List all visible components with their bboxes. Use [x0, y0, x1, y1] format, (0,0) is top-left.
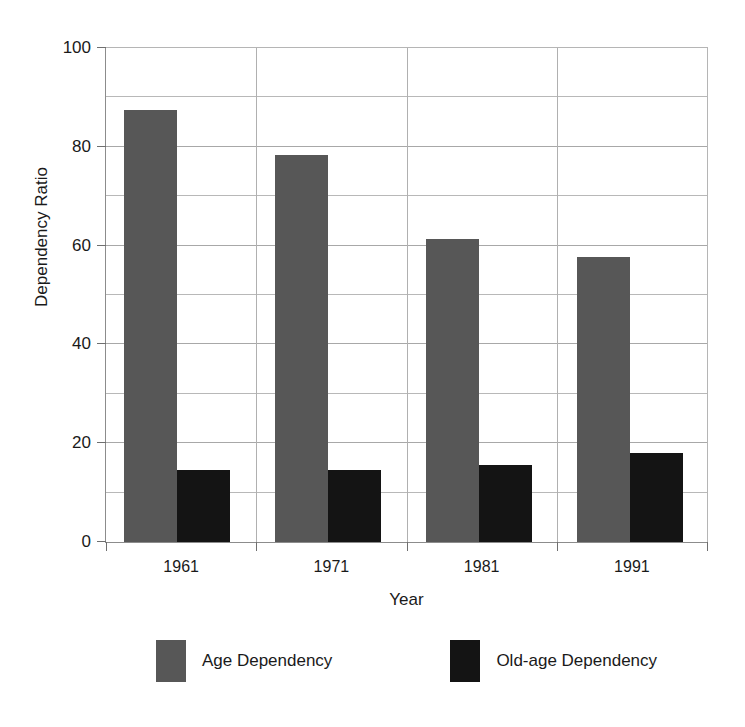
- legend-entry: Old-age Dependency: [450, 640, 657, 682]
- legend-label: Age Dependency: [202, 651, 332, 671]
- bar: [630, 453, 683, 542]
- y-axis-tick: 60: [97, 245, 106, 246]
- y-axis-tick: 40: [97, 343, 106, 344]
- x-axis-tick-label: 1961: [163, 558, 199, 576]
- legend-swatch: [450, 640, 480, 682]
- bar: [124, 110, 177, 542]
- x-axis-tick-label: 1991: [614, 558, 650, 576]
- y-axis-tick-label: 0: [82, 532, 91, 552]
- y-axis-title: Dependency Ratio: [27, 137, 57, 337]
- bar: [275, 155, 328, 542]
- x-axis-tick: [557, 542, 558, 551]
- y-axis-tick-label: 40: [72, 334, 91, 354]
- legend-entry: Age Dependency: [156, 640, 332, 682]
- bar-chart-figure: Dependency Ratio 020406080100 1961197119…: [0, 0, 745, 727]
- x-axis-tick-label: 1981: [464, 558, 500, 576]
- x-axis-tick-label: 1971: [314, 558, 350, 576]
- y-axis-tick: 0: [97, 541, 106, 542]
- legend-swatch: [156, 640, 186, 682]
- x-axis-tick: [707, 542, 708, 551]
- bar: [328, 470, 381, 542]
- bar: [577, 257, 630, 542]
- category-separator: [407, 48, 408, 542]
- x-axis-tick: [256, 542, 257, 551]
- y-axis-tick-label: 100: [63, 38, 91, 58]
- y-axis-tick: 100: [97, 47, 106, 48]
- y-axis-tick-label: 20: [72, 433, 91, 453]
- category-separator: [256, 48, 257, 542]
- x-axis-title: Year: [105, 590, 708, 610]
- plot-area: 020406080100 1961197119811991: [105, 47, 708, 543]
- y-axis-tick-label: 60: [72, 236, 91, 256]
- bar: [479, 465, 532, 542]
- y-axis-tick-label: 80: [72, 137, 91, 157]
- x-axis-tick: [407, 542, 408, 551]
- bar: [426, 239, 479, 542]
- x-axis-tick: [106, 542, 107, 551]
- legend-label: Old-age Dependency: [496, 651, 657, 671]
- y-axis-tick: 20: [97, 442, 106, 443]
- bar: [177, 470, 230, 542]
- y-axis-tick: 80: [97, 146, 106, 147]
- chart-legend: Age DependencyOld-age Dependency: [105, 636, 708, 686]
- category-separator: [557, 48, 558, 542]
